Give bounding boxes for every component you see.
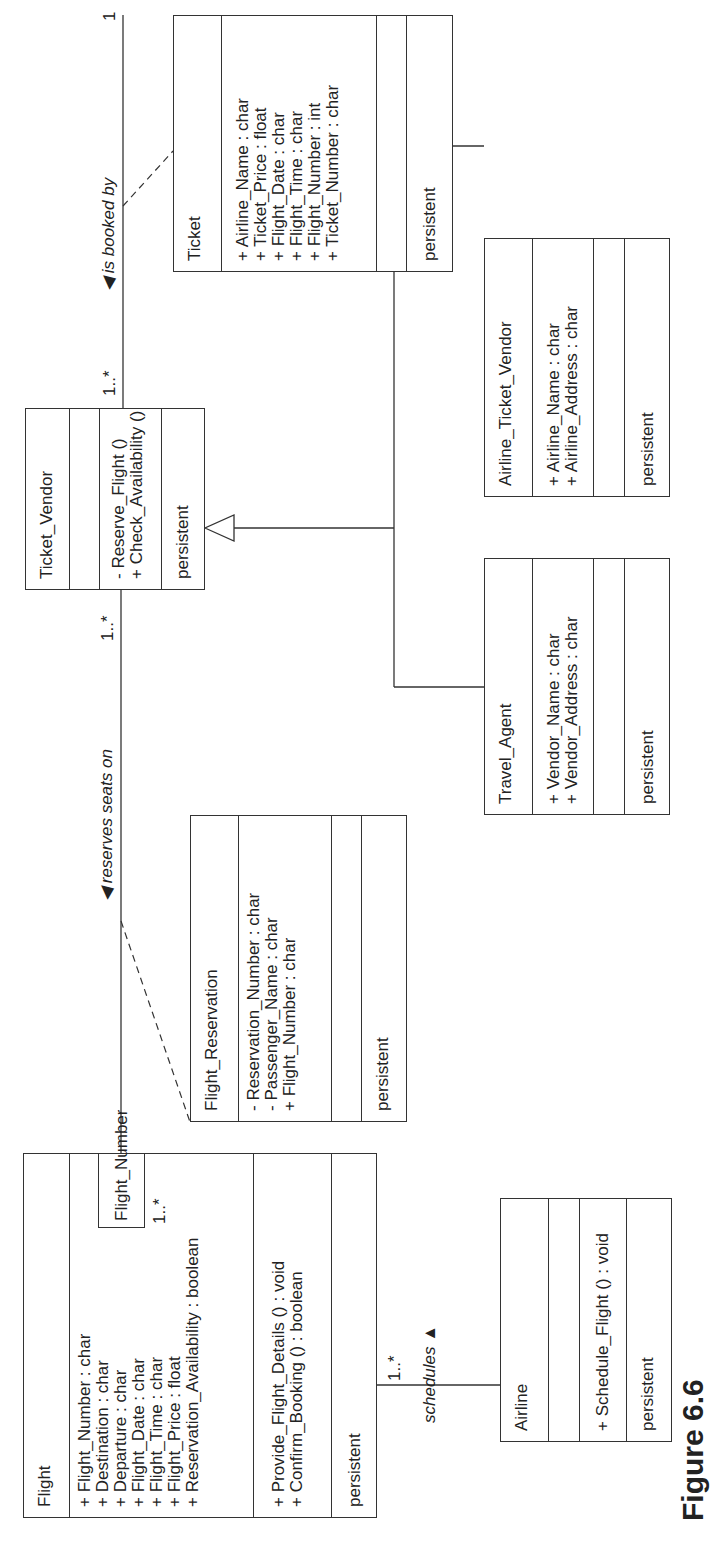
class-airline-attributes [548,1199,579,1441]
operation: + Schedule_Flight () : void [594,1209,612,1431]
class-airline-stereotype: persistent [626,1199,671,1441]
multiplicity-vendor-reserves: 1..* [98,615,118,641]
class-airline-ticket-vendor-attributes: + Airline_Name : char + Airline_Address … [532,239,593,496]
class-airline[interactable]: Airline + Schedule_Flight () : void pers… [500,1198,672,1442]
attribute: + Ticket_Number : char [324,26,342,261]
class-travel-agent-attributes: + Vendor_Name : char + Vendor_Address : … [532,559,593,814]
class-ticket-vendor[interactable]: Ticket_Vendor - Reserve_Flight () + Chec… [25,408,205,590]
attribute: + Flight_Number : int [306,26,324,261]
operation: - Reserve_Flight () [110,419,128,579]
class-ticket-vendor-name: Ticket_Vendor [26,409,69,589]
class-ticket-stereotype: persistent [406,16,452,271]
attribute: + Ticket_Price : float [252,26,270,261]
class-travel-agent-stereotype: persistent [624,559,669,814]
class-ticket-attributes: + Airline_Name : char + Ticket_Price : f… [221,16,376,271]
attribute: - Passenger_Name : char [263,826,281,1111]
class-flight-reservation-attributes: - Reservation_Number : char - Passenger_… [238,816,331,1121]
attribute: + Airline_Name : char [545,249,563,486]
class-travel-agent-name: Travel_Agent [485,559,532,814]
multiplicity-flight-reserves: 1..* [150,1198,170,1224]
class-airline-ticket-vendor-name: Airline_Ticket_Vendor [485,239,532,496]
class-ticket-operations [376,16,406,271]
class-flight-reservation-stereotype: persistent [361,816,406,1121]
class-flight-stereotype: persistent [331,1154,376,1517]
class-flight-reservation-name: Flight_Reservation [191,816,238,1121]
attribute: + Flight_Number : char [281,826,299,1111]
attribute: + Airline_Name : char [234,26,252,261]
class-ticket-vendor-operations: - Reserve_Flight () + Check_Availability… [99,409,161,589]
operation: + Check_Availability () [128,419,146,579]
multiplicity-flight-schedules: 1..* [385,1355,405,1381]
qualifier-flight-number-label: Flight_Number [99,1154,144,1227]
class-flight-reservation-operations [331,816,361,1121]
class-ticket-vendor-attributes [69,409,99,589]
attribute: - Reservation_Number : char [245,826,263,1111]
association-label-schedules: schedules ▲ [420,1325,440,1423]
class-airline-operations: + Schedule_Flight () : void [579,1199,626,1441]
class-travel-agent-operations [593,559,624,814]
class-flight[interactable]: Flight + Flight_Number : char + Destinat… [23,1153,377,1518]
class-ticket-vendor-stereotype: persistent [161,409,204,589]
class-travel-agent[interactable]: Travel_Agent + Vendor_Name : char + Vend… [484,558,670,815]
class-ticket[interactable]: Ticket + Airline_Name : char + Ticket_Pr… [173,15,453,272]
operation: + Confirm_Booking () : boolean [288,1164,306,1507]
attribute: + Flight_Time : char [288,26,306,261]
class-airline-name: Airline [501,1199,548,1441]
class-flight-reservation[interactable]: Flight_Reservation - Reservation_Number … [190,815,407,1122]
attribute: + Vendor_Name : char [545,569,563,804]
class-airline-ticket-vendor-stereotype: persistent [624,239,669,496]
association-label-reserves: ◀ reserves seats on [96,749,117,901]
class-airline-ticket-vendor[interactable]: Airline_Ticket_Vendor + Airline_Name : c… [484,238,670,497]
figure-caption: Figure 6.6 [676,1379,710,1521]
class-flight-operations: + Provide_Flight_Details () : void + Con… [253,1154,331,1517]
association-label-booked: ◀ is booked by [98,178,119,291]
attribute: + Reservation_Availability : boolean [184,1164,202,1507]
class-flight-name: Flight [24,1154,69,1517]
class-ticket-name: Ticket [174,16,221,271]
attribute: + Airline_Address : char [563,249,581,486]
attribute: + Vendor_Address : char [563,569,581,804]
multiplicity-vendor-booked: 1..* [100,370,120,396]
operation: + Provide_Flight_Details () : void [270,1164,288,1507]
class-airline-ticket-vendor-operations [593,239,624,496]
qualifier-flight-number[interactable]: Flight_Number [98,1153,145,1228]
multiplicity-ticket-booked: 1 [100,12,120,21]
attribute: + Flight_Date : char [270,26,288,261]
attribute: + Flight_Number : char [76,1164,94,1507]
